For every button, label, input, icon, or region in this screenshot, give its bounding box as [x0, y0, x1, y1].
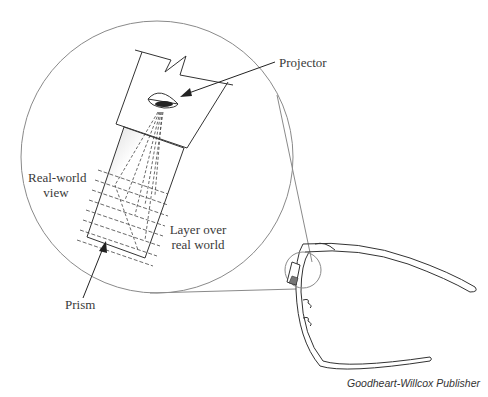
smart-glasses-diagram: Projector Real-world view Layer over rea…: [0, 0, 488, 397]
label-projector: Projector: [279, 55, 327, 70]
publisher-credit: Goodheart-Willcox Publisher: [347, 377, 480, 389]
label-prism: Prism: [65, 297, 95, 312]
prism-arrow: [83, 241, 107, 298]
label-layer-line2: real world: [168, 237, 228, 252]
label-real-world-view: Real-world view: [28, 170, 84, 200]
label-real-world-view-line1: Real-world: [28, 170, 84, 185]
label-real-world-view-line2: view: [28, 185, 84, 200]
label-layer-line1: Layer over: [168, 222, 228, 237]
glasses-frame: [296, 243, 476, 369]
label-layer-over-real-world: Layer over real world: [168, 222, 228, 252]
